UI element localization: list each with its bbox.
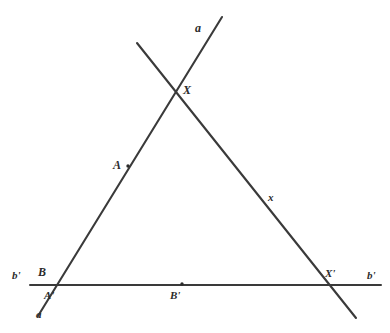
point-marker-B-prime — [180, 282, 183, 285]
diagram-canvas — [0, 0, 390, 333]
label-point-A-prime: A' — [44, 290, 54, 301]
label-line-b-prime-left: b' — [12, 270, 21, 281]
point-marker-A — [126, 164, 129, 167]
label-line-b-prime-right: b' — [367, 270, 376, 281]
label-line-a-top: a — [195, 22, 201, 34]
label-point-B-prime: B' — [170, 290, 180, 301]
label-line-a-bottom: a — [36, 309, 42, 320]
label-line-x: x — [268, 192, 274, 203]
label-point-B: B — [38, 266, 46, 278]
label-point-X-prime: X' — [325, 268, 335, 279]
label-point-A: A — [113, 159, 121, 171]
geometry-figure: a X A x b' B A' a B' X' b' — [0, 0, 390, 333]
label-point-X: X — [183, 84, 191, 96]
